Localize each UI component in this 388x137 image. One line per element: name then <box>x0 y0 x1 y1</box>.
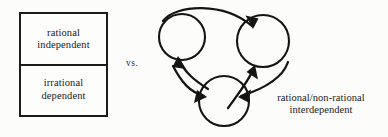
node-bottom-circle <box>199 76 249 126</box>
arrow-bottom-to-right <box>228 65 258 108</box>
box-cell-rational-independent: rational independent <box>21 14 106 65</box>
node-left-circle <box>159 14 205 60</box>
box-cell-top-label: rational independent <box>37 27 89 52</box>
node-right-circle <box>237 15 289 67</box>
box-cell-irrational-dependent: irrational dependent <box>21 65 106 116</box>
hierarchical-box: rational independent irrational dependen… <box>19 12 108 117</box>
arrow-left-to-right <box>163 8 259 29</box>
box-cell-bottom-label: irrational dependent <box>41 77 85 102</box>
figure-canvas: rational independent irrational dependen… <box>0 0 388 137</box>
vs-separator-label: vs. <box>126 58 138 68</box>
cycle-caption: rational/non-rational interdependent <box>256 92 386 117</box>
